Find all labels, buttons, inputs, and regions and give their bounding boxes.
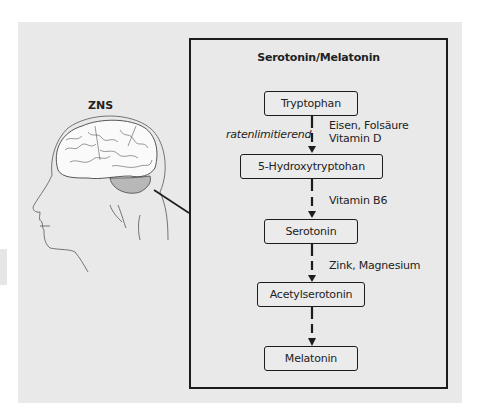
brain-illustration [56,120,157,193]
zns-label: ZNS [88,99,113,112]
node-serotonin: Serotonin [264,219,358,244]
pathway-title: Serotonin/Melatonin [191,51,446,64]
node-tryptophan: Tryptophan [264,91,358,116]
rate-limiting-note: ratenlimitierend [226,128,311,141]
cofactor-step1-line1: Eisen, Folsäure [329,119,409,132]
brainstem-line [118,205,126,228]
connector-line [154,190,189,213]
cofactor-step2: Vitamin B6 [329,194,387,207]
node-acetylserotonin: Acetylserotonin [257,282,365,307]
cofactor-step1-line2: Vitamin D [329,132,381,145]
cofactor-step3: Zink, Magnesium [329,259,420,272]
node-5-hydroxytryptophan: 5-Hydroxytryptohan [240,154,383,179]
node-melatonin: Melatonin [264,346,358,371]
cerebellum [110,176,151,193]
neck-line [139,215,141,240]
cerebrum [56,120,157,178]
